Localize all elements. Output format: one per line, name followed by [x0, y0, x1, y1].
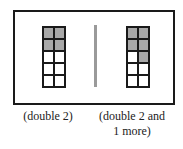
empty-cell: [54, 63, 65, 75]
divider-bar: [94, 25, 97, 87]
shaded-cell: [127, 27, 138, 39]
shaded-cell: [138, 27, 149, 39]
shaded-cell: [54, 39, 65, 51]
caption-left: (double 2): [13, 109, 83, 123]
empty-cell: [43, 75, 54, 87]
shaded-cell: [138, 51, 149, 63]
shaded-cell: [54, 27, 65, 39]
ten-frame-left: [42, 26, 66, 88]
empty-cell: [127, 75, 138, 87]
shaded-cell: [138, 39, 149, 51]
empty-cell: [138, 63, 149, 75]
shaded-cell: [127, 39, 138, 51]
empty-cell: [127, 63, 138, 75]
empty-cell: [127, 51, 138, 63]
empty-cell: [138, 75, 149, 87]
shaded-cell: [43, 39, 54, 51]
caption-right-line2: 1 more): [86, 124, 178, 138]
empty-cell: [43, 51, 54, 63]
empty-cell: [54, 75, 65, 87]
shaded-cell: [43, 27, 54, 39]
empty-cell: [54, 51, 65, 63]
empty-cell: [43, 63, 54, 75]
caption-right-line1: (double 2 and: [86, 109, 178, 123]
ten-frame-right: [126, 26, 150, 88]
